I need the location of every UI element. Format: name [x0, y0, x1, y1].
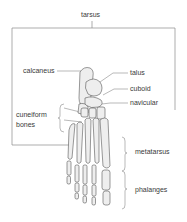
metatarsal-bone	[77, 122, 83, 164]
cuneiform-bone	[81, 108, 88, 117]
label-navicular: navicular	[130, 99, 158, 107]
phalanx-bone	[92, 185, 96, 196]
phalanx-bone	[67, 176, 71, 184]
navicular-leader	[102, 103, 128, 104]
cuneiform-bone	[89, 108, 96, 118]
metatarsal-bone	[68, 124, 75, 160]
label-metatarsus: metatarsus	[135, 148, 170, 156]
label-talus: talus	[130, 69, 145, 77]
foot-bones	[67, 68, 110, 206]
phalanx-bone	[103, 191, 110, 205]
label-calcaneus: calcaneus	[23, 67, 55, 75]
metatarsal-bone	[85, 118, 91, 164]
talus-bone	[85, 79, 102, 96]
phalanx-bone	[83, 196, 87, 203]
cuboid-leader	[103, 89, 128, 95]
label-tarsus: tarsus	[81, 11, 100, 19]
label-cuneiform-line1: cuneiform	[16, 111, 47, 119]
phalanx-bone	[75, 193, 79, 199]
metatarsal-bone	[100, 118, 110, 168]
phalanx-bone	[92, 197, 96, 205]
phalanx-bone	[75, 165, 79, 182]
phalanx-bone	[75, 183, 79, 192]
label-cuneiform-line2: bones	[16, 121, 35, 129]
talus-leader	[100, 73, 128, 82]
cuneiform-bracket	[58, 104, 64, 132]
metatarsus-bracket	[122, 137, 127, 171]
label-cuboid: cuboid	[130, 85, 151, 93]
phalanx-bone	[83, 185, 87, 195]
cuneiform-bone	[97, 107, 105, 119]
phalanx-bone	[92, 165, 96, 184]
label-phalanges: phalanges	[135, 186, 167, 194]
phalanx-bone	[83, 165, 87, 184]
phalanx-bone	[67, 161, 71, 175]
phalanx-bone	[102, 170, 110, 190]
phalanges-bracket	[122, 171, 127, 209]
metatarsal-bone	[93, 118, 99, 164]
